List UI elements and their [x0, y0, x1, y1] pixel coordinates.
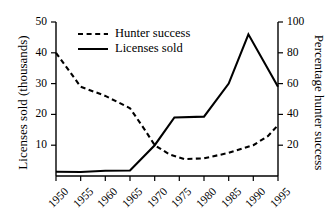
y-axis-right-tick-label: 60	[287, 77, 317, 89]
y-axis-left-tick-label: 20	[14, 107, 47, 119]
chart-figure: Licenses sold (thousands) Percentage hun…	[0, 0, 332, 216]
right-axis-ticks	[278, 22, 283, 145]
y-axis-right-tick-label: 20	[287, 138, 317, 150]
legend-label: Hunter success	[115, 27, 190, 40]
y-axis-left-tick-label: 10	[14, 138, 47, 150]
legend-label: Licenses sold	[115, 42, 183, 55]
legend-item-licenses-sold: Licenses sold	[78, 41, 190, 56]
legend-key-solid-line-icon	[78, 43, 108, 55]
y-axis-left-tick-label: 30	[14, 77, 47, 89]
y-axis-left-tick-label: 40	[14, 46, 47, 58]
x-axis-ticks	[56, 176, 278, 181]
y-axis-right-tick-label: 80	[287, 46, 317, 58]
y-axis-right-title: Percentage hunter success	[313, 18, 326, 188]
left-axis-ticks	[51, 22, 56, 145]
series-line-hunter-success	[56, 53, 278, 159]
chart-legend: Hunter success Licenses sold	[78, 26, 190, 56]
y-axis-left-title: Licenses sold (thousands)	[16, 18, 29, 188]
legend-item-hunter-success: Hunter success	[78, 26, 190, 41]
y-axis-right-tick-label: 40	[287, 107, 317, 119]
y-axis-left-tick-label: 50	[14, 15, 47, 27]
y-axis-right-tick-label: 100	[287, 15, 317, 27]
legend-key-dashed-line-icon	[78, 28, 108, 40]
